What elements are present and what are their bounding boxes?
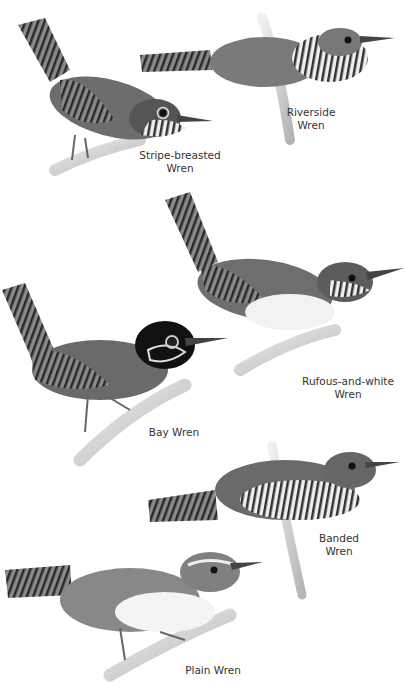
bird-illustrations — [0, 0, 406, 683]
wren-illustration-plate: Stripe-breasted Wren Riverside Wren Rufo… — [0, 0, 406, 683]
banded-wren-label: Banded Wren — [312, 532, 366, 558]
label-line: Wren — [298, 388, 398, 401]
stripe-breasted-wren-figure — [18, 18, 213, 170]
label-line: Riverside — [283, 106, 339, 119]
rufous-and-white-wren-figure — [165, 192, 404, 370]
label-line: Wren — [312, 545, 366, 558]
rufous-and-white-wren-label: Rufous-and-white Wren — [298, 375, 398, 401]
plain-wren-figure — [5, 552, 263, 675]
label-line: Plain Wren — [180, 664, 246, 677]
bay-wren-label: Bay Wren — [144, 426, 204, 439]
label-line: Stripe-breasted — [134, 149, 226, 162]
label-line: Wren — [134, 162, 226, 175]
label-line: Banded — [312, 532, 366, 545]
riverside-wren-label: Riverside Wren — [283, 106, 339, 132]
stripe-breasted-wren-label: Stripe-breasted Wren — [134, 149, 226, 175]
label-line: Rufous-and-white — [298, 375, 398, 388]
label-line: Wren — [283, 119, 339, 132]
label-line: Bay Wren — [144, 426, 204, 439]
plain-wren-label: Plain Wren — [180, 664, 246, 677]
